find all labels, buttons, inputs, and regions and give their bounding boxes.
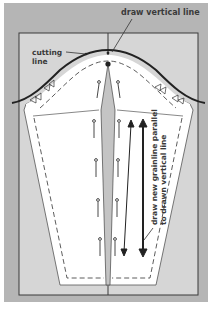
cap-point bbox=[107, 52, 110, 55]
label-draw-vertical-line: draw vertical line bbox=[121, 8, 200, 17]
label-grainline-1: draw new grainline parallel bbox=[150, 109, 159, 225]
label-cutting: cutting bbox=[32, 48, 62, 57]
label-line: line bbox=[32, 57, 48, 66]
sleeve-pattern-diagram: draw vertical line cutting line draw new… bbox=[0, 0, 218, 331]
top-point bbox=[105, 61, 110, 66]
label-grainline-2: to drawn vertical line bbox=[159, 135, 168, 225]
